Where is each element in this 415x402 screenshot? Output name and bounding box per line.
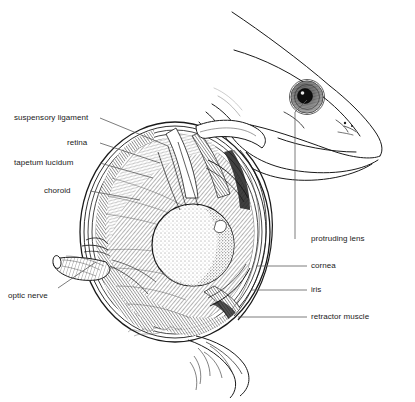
label-suspensory-ligament: suspensory ligament — [14, 113, 88, 123]
label-retina: retina — [67, 138, 87, 148]
label-cornea: cornea — [311, 261, 336, 271]
fish-eye — [290, 80, 325, 115]
label-optic-nerve: optic nerve — [8, 291, 48, 301]
fish-eye-pupil — [298, 89, 313, 104]
label-protruding-lens: protruding lens — [311, 234, 365, 244]
fish-eye-anatomy-figure: suspensory ligamentretinatapetum lucidum… — [0, 0, 415, 402]
label-iris: iris — [311, 285, 321, 295]
label-choroid: choroid — [44, 186, 71, 196]
label-tapetum-lucidum: tapetum lucidum — [14, 158, 73, 168]
fish-eye-highlight — [301, 91, 305, 95]
illustration-svg — [0, 0, 415, 402]
label-retractor-muscle: retractor muscle — [311, 312, 369, 322]
lens-highlight — [214, 220, 226, 232]
